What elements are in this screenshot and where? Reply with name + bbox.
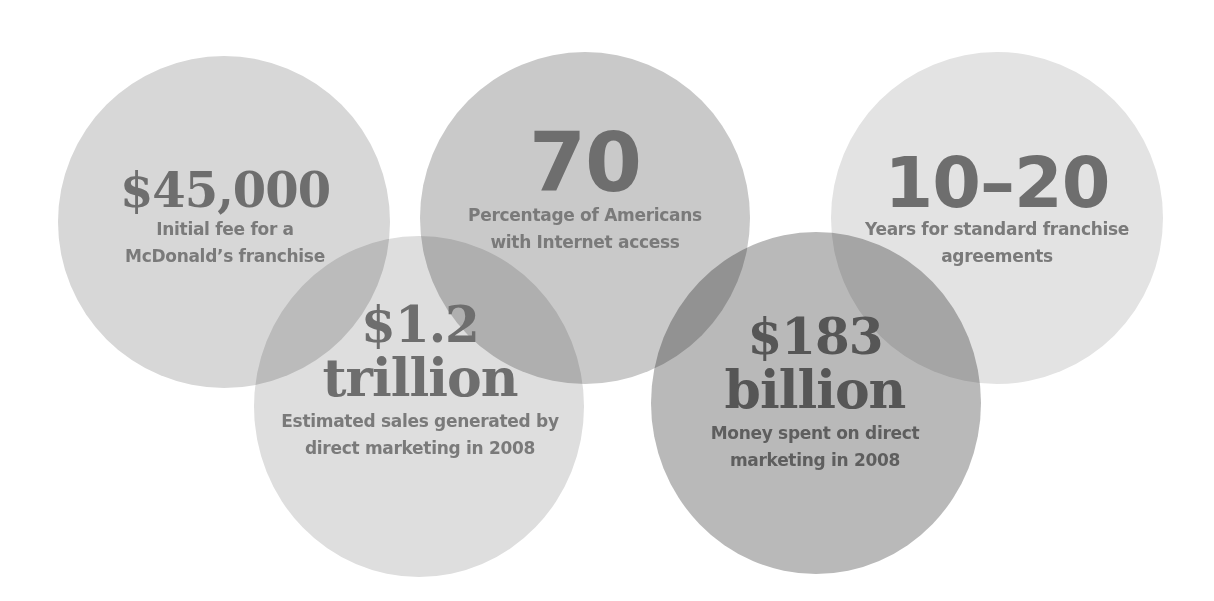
stat-caption-line2: agreements: [836, 243, 1158, 270]
stat-caption-line1: Percentage of Americans: [440, 202, 730, 229]
stat-internet-access: 70 Percentage of Americans with Internet…: [440, 122, 730, 256]
stat-value: $45,000: [90, 166, 360, 214]
stat-caption-line2: McDonald’s franchise: [90, 243, 360, 270]
stat-direct-marketing-spend: $183 billion Money spent on direct marke…: [665, 312, 965, 474]
stat-value-unit: billion: [665, 364, 965, 416]
stat-franchise-years: 10–20 Years for standard franchise agree…: [836, 148, 1158, 270]
stat-franchise-fee: $45,000 Initial fee for a McDonald’s fra…: [90, 166, 360, 270]
stat-value: 70: [440, 122, 730, 204]
stat-direct-marketing-sales: $1.2 trillion Estimated sales generated …: [264, 300, 576, 462]
stat-caption-line1: Money spent on direct: [665, 420, 965, 447]
stat-value: 10–20: [836, 148, 1158, 218]
stat-caption-line1: Years for standard franchise: [836, 216, 1158, 243]
stat-value: $183: [665, 312, 965, 362]
stat-caption-line2: with Internet access: [440, 229, 730, 256]
stat-caption-line1: Estimated sales generated by: [264, 408, 576, 435]
stat-value: $1.2: [264, 300, 576, 350]
stat-value-unit: trillion: [264, 352, 576, 404]
stat-caption-line1: Initial fee for a: [90, 216, 360, 243]
infographic-stats-circles: $45,000 Initial fee for a McDonald’s fra…: [0, 0, 1214, 601]
stat-caption-line2: marketing in 2008: [665, 447, 965, 474]
stat-caption-line2: direct marketing in 2008: [264, 435, 576, 462]
